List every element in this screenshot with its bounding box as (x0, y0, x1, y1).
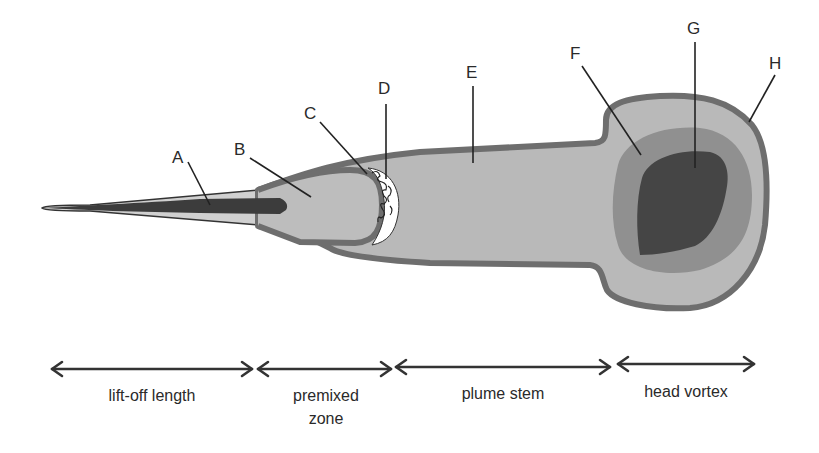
arrow-head-vortex (618, 357, 754, 371)
zone-label-premixed-2: zone (309, 410, 344, 427)
arrow-plume-stem (396, 360, 610, 374)
leader-h (749, 75, 775, 122)
zone-label-premixed-1: premixed (293, 387, 359, 404)
callout-h: H (769, 54, 781, 73)
callout-f: F (570, 44, 580, 63)
callout-g: G (687, 19, 700, 38)
callout-e: E (466, 63, 477, 82)
callout-b: B (234, 140, 245, 159)
callout-c: C (304, 104, 316, 123)
zone-label-head-vortex: head vortex (644, 383, 728, 400)
arrow-premixed (258, 362, 391, 376)
zone-label-plume-stem: plume stem (462, 385, 545, 402)
plume-diagram: A B C D E F G H lift-off length premixed… (0, 0, 819, 453)
zone-label-lift-off: lift-off length (109, 387, 196, 404)
callout-d: D (378, 79, 390, 98)
callout-a: A (172, 148, 184, 167)
arrow-lift-off (52, 362, 252, 376)
